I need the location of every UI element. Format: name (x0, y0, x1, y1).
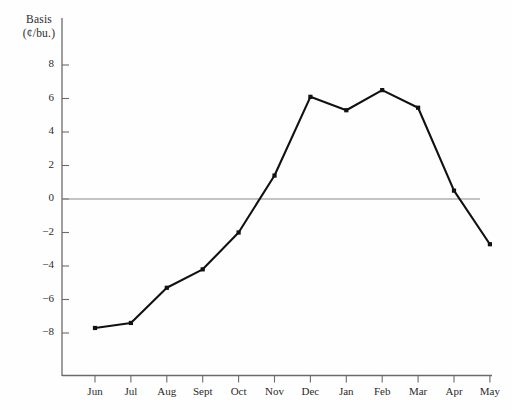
y-tick-label: 2 (32, 158, 54, 170)
basis-series-line (95, 90, 490, 328)
x-tick-marks (95, 376, 490, 383)
data-point-marker (488, 242, 492, 246)
y-tick-label: 6 (32, 91, 54, 103)
data-point-marker (416, 106, 420, 110)
basis-series-markers (93, 88, 492, 330)
y-tick-label: 0 (32, 191, 54, 203)
data-point-marker (344, 108, 348, 112)
y-tick-label: 8 (32, 57, 54, 69)
data-point-marker (308, 95, 312, 99)
data-point-marker (165, 286, 169, 290)
basis-chart-figure: Basis (¢/bu.) 86420−2−4−6−8 JunJulAugSep… (0, 0, 512, 410)
x-tick-label: May (468, 385, 512, 397)
data-point-marker (201, 267, 205, 271)
data-point-marker (93, 326, 97, 330)
data-point-marker (452, 189, 456, 193)
y-tick-label: −4 (32, 258, 54, 270)
y-tick-label: −6 (32, 292, 54, 304)
y-tick-label: 4 (32, 124, 54, 136)
y-tick-label: −8 (32, 325, 54, 337)
axes-group (62, 18, 492, 376)
data-point-marker (237, 230, 241, 234)
chart-canvas (0, 0, 512, 410)
data-point-marker (129, 321, 133, 325)
y-tick-label: −2 (32, 225, 54, 237)
data-point-marker (380, 88, 384, 92)
data-point-marker (272, 173, 276, 177)
